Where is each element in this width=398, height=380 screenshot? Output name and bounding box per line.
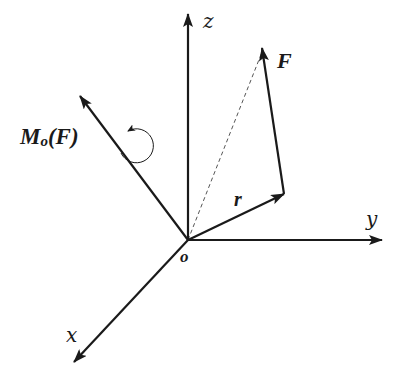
moment-label-main: M: [19, 124, 42, 149]
moment-label: Mo(F): [19, 124, 79, 149]
f-vector-label: F: [276, 48, 292, 73]
z-axis-label: z: [202, 9, 214, 33]
dashed-position-line: [188, 52, 262, 240]
moment-vector: [80, 96, 188, 240]
moment-label-subscript: o: [40, 133, 48, 149]
origin-label: o: [180, 247, 189, 266]
moment-label-suffix: (F): [48, 124, 79, 149]
r-vector-label: r: [234, 188, 242, 210]
x-axis: [74, 240, 188, 362]
x-axis-label: x: [66, 323, 77, 347]
y-axis-label: y: [365, 207, 378, 231]
moment-diagram: z y x o r F Mo(F): [0, 0, 398, 380]
